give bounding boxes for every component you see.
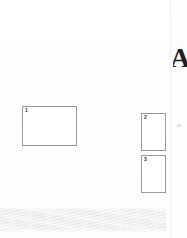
- figure-box-number-1: 1: [25, 107, 28, 114]
- band-top-fade: [0, 207, 166, 210]
- figure-placeholder-box-3[interactable]: 3: [141, 155, 166, 193]
- scanned-page: A 1 2 3: [0, 0, 187, 238]
- page-gutter: [170, 0, 187, 238]
- figure-placeholder-box-2[interactable]: 2: [141, 113, 166, 151]
- edge-glyph-text: A: [173, 48, 187, 72]
- bottom-wavy-pattern-band: [0, 207, 166, 233]
- band-bottom-fade: [0, 229, 166, 233]
- figure-box-number-2: 2: [144, 114, 147, 121]
- figure-box-number-3: 3: [144, 156, 147, 163]
- figure-placeholder-box-1[interactable]: 1: [22, 106, 77, 146]
- edge-letterform-mark: A: [173, 48, 187, 74]
